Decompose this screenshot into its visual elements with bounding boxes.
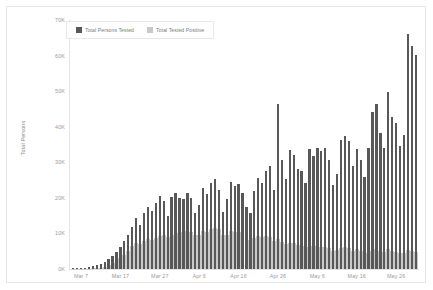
legend-item[interactable]: Total Tested Positive (147, 27, 204, 33)
bar-persons-tested (415, 55, 417, 269)
plot-area: 0K10K20K30K40K50K60K70KMar 7Mar 17Mar 27… (69, 20, 419, 270)
bar-persons-tested (230, 182, 232, 270)
bar-persons-tested (245, 207, 247, 269)
y-axis-title: Total Persons (20, 98, 26, 178)
bar-persons-tested (237, 184, 239, 269)
y-axis-tick-label: 70K (55, 17, 65, 23)
bar-persons-tested (360, 160, 362, 269)
x-axis-tick-label: Apr 16 (230, 273, 246, 279)
bar-persons-tested (104, 262, 106, 269)
bar-persons-tested (324, 148, 326, 269)
bar-persons-tested (226, 199, 228, 269)
x-axis-tick-label: Mar 27 (151, 273, 168, 279)
x-axis-tick-label: Mar 7 (74, 273, 88, 279)
bar-persons-tested (159, 196, 161, 269)
bar-persons-tested (387, 92, 389, 269)
bar-persons-tested (190, 198, 192, 269)
bar-persons-tested (399, 146, 401, 269)
bar-persons-tested (332, 185, 334, 269)
bar-persons-tested (344, 136, 346, 269)
bar-persons-tested (273, 190, 275, 269)
bar-persons-tested (249, 213, 251, 269)
legend-swatch-icon (76, 27, 82, 33)
bar-persons-tested (111, 256, 113, 269)
bar-persons-tested (367, 148, 369, 269)
bar-persons-tested (151, 211, 153, 269)
bar-persons-tested (170, 197, 172, 269)
bar-persons-tested (253, 191, 255, 269)
bar-persons-tested (127, 235, 129, 269)
bar-persons-tested (407, 34, 409, 269)
bar-persons-tested (123, 241, 125, 269)
x-axis-tick-label: Mar 17 (112, 273, 129, 279)
bar-persons-tested (155, 203, 157, 269)
y-axis-tick-label: 50K (55, 88, 65, 94)
bar-persons-tested (403, 135, 405, 269)
x-axis-tick-label: May 6 (310, 273, 325, 279)
bar-persons-tested (163, 201, 165, 269)
bar-persons-tested (206, 194, 208, 269)
bar-persons-tested (202, 188, 204, 269)
bar-persons-tested (328, 160, 330, 269)
bar-persons-tested (289, 150, 291, 269)
bar-persons-tested (80, 268, 82, 269)
bar-persons-tested (391, 117, 393, 269)
bar-persons-tested (277, 104, 279, 269)
bar-persons-tested (182, 199, 184, 269)
bar-persons-tested (285, 179, 287, 269)
bars-container (70, 20, 419, 269)
bar-persons-tested (265, 171, 267, 269)
bar-persons-tested (92, 266, 94, 269)
y-axis-tick-label: 40K (55, 124, 65, 130)
bar-persons-tested (356, 149, 358, 269)
bar-persons-tested (84, 268, 86, 269)
bar-persons-tested (352, 166, 354, 269)
bar-persons-tested (348, 141, 350, 269)
bar-persons-tested (198, 205, 200, 269)
bar-persons-tested (96, 265, 98, 269)
chart-screenshot: Total Persons 0K10K20K30K40K50K60K70KMar… (0, 0, 433, 290)
bar-persons-tested (312, 156, 314, 269)
bar-persons-tested (340, 140, 342, 269)
y-axis-tick-label: 60K (55, 53, 65, 59)
bar-persons-tested (234, 186, 236, 269)
bar-persons-tested (371, 112, 373, 269)
bar-persons-tested (261, 183, 263, 269)
bar-persons-tested (269, 166, 271, 269)
bar-persons-tested (218, 190, 220, 269)
bar-persons-tested (186, 193, 188, 269)
legend-swatch-icon (147, 27, 153, 33)
bar-persons-tested (139, 225, 141, 269)
bar-persons-tested (281, 160, 283, 269)
bar-persons-tested (395, 123, 397, 269)
y-axis-tick-label: 0K (58, 266, 65, 272)
bar-persons-tested (107, 259, 109, 269)
bar-persons-tested (214, 179, 216, 269)
bar-persons-tested (222, 212, 224, 269)
y-axis-tick-label: 20K (55, 195, 65, 201)
x-axis-tick-label: May 26 (387, 273, 405, 279)
bar-persons-tested (320, 151, 322, 269)
chart-legend: Total Persons TestedTotal Tested Positiv… (66, 21, 214, 39)
bar-persons-tested (379, 133, 381, 269)
y-axis-tick-label: 10K (55, 230, 65, 236)
legend-item[interactable]: Total Persons Tested (76, 27, 134, 33)
bar-persons-tested (143, 213, 145, 269)
bar-persons-tested (300, 171, 302, 269)
bar-persons-tested (411, 46, 413, 269)
bar-persons-tested (293, 155, 295, 269)
bar-persons-tested (316, 148, 318, 269)
bar-persons-tested (100, 264, 102, 269)
x-axis-tick-label: May 16 (348, 273, 366, 279)
bar-persons-tested (210, 183, 212, 269)
bar-persons-tested (383, 148, 385, 269)
bar-persons-tested (194, 213, 196, 269)
bar-persons-tested (375, 104, 377, 269)
bar-persons-tested (88, 267, 90, 269)
chart-frame: Total Persons 0K10K20K30K40K50K60K70KMar… (6, 6, 426, 283)
bar-persons-tested (297, 169, 299, 269)
bar-persons-tested (76, 268, 78, 269)
bar-persons-tested (174, 193, 176, 269)
bar-persons-tested (178, 198, 180, 269)
bar-persons-tested (308, 149, 310, 269)
